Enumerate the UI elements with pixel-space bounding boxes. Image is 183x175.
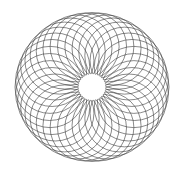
circle-rosette-figure [0,0,183,175]
